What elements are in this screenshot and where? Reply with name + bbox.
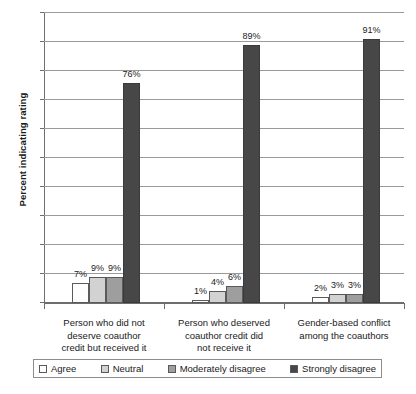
y-tick-mark — [40, 186, 44, 187]
y-tick-mark — [40, 244, 44, 245]
y-tick-mark — [40, 99, 44, 100]
category-label-line: among the coauthors — [278, 330, 410, 343]
bar — [89, 277, 106, 303]
gridline — [44, 244, 404, 245]
category-label-line: Gender-based conflict — [278, 317, 410, 330]
gridline — [44, 70, 404, 71]
bar — [192, 300, 209, 303]
legend-item[interactable]: Moderately disagree — [168, 363, 266, 374]
y-tick-mark — [40, 70, 44, 71]
category-label-line: Person who deserved — [158, 317, 290, 330]
bar-value-label: 76% — [117, 69, 146, 79]
y-axis-title: Percent indicating rating — [17, 50, 28, 250]
legend-label: Neutral — [113, 363, 144, 374]
category-label: Gender-based conflictamong the coauthors — [278, 317, 410, 342]
category-label-line: not receive it — [158, 342, 290, 355]
gridline — [44, 186, 404, 187]
category-tick — [284, 303, 285, 309]
category-label-line: deserve coauthor — [38, 330, 170, 343]
gridline — [44, 41, 404, 42]
bar — [209, 291, 226, 303]
y-tick-mark — [40, 41, 44, 42]
legend-label: Moderately disagree — [180, 363, 266, 374]
bar — [346, 294, 363, 303]
legend-swatch-icon — [290, 365, 298, 373]
y-tick-mark — [40, 128, 44, 129]
bar-value-label: 91% — [357, 25, 386, 35]
bar — [243, 45, 260, 303]
category-label: Person who deservedcoauthor credit didno… — [158, 317, 290, 355]
y-tick-mark — [40, 12, 44, 13]
y-tick-mark — [40, 215, 44, 216]
category-label: Person who did notdeserve coauthorcredit… — [38, 317, 170, 355]
legend-swatch-icon — [168, 365, 176, 373]
bar — [329, 294, 346, 303]
category-tick — [404, 303, 405, 309]
category-tick — [44, 303, 45, 309]
category-label-line: Person who did not — [38, 317, 170, 330]
category-tick — [164, 303, 165, 309]
gridline — [44, 128, 404, 129]
legend-swatch-icon — [39, 365, 47, 373]
bar — [72, 283, 89, 303]
y-tick-mark — [40, 273, 44, 274]
gridline — [44, 12, 404, 13]
plot-area: 0%10%20%30%40%50%60%70%80%90%100% 7%9%9%… — [44, 12, 404, 303]
legend-item[interactable]: Strongly disagree — [290, 363, 376, 374]
category-label-line: coauthor credit did — [158, 330, 290, 343]
y-tick-mark — [40, 157, 44, 158]
gridline — [44, 215, 404, 216]
bar-value-label: 89% — [237, 31, 266, 41]
legend-label: Agree — [51, 363, 76, 374]
bar — [312, 297, 329, 303]
bar — [226, 286, 243, 303]
gridline — [44, 157, 404, 158]
legend-label: Strongly disagree — [302, 363, 376, 374]
bar — [123, 83, 140, 303]
legend-item[interactable]: Neutral — [101, 363, 144, 374]
bar — [363, 39, 380, 303]
legend-item[interactable]: Agree — [39, 363, 76, 374]
gridline — [44, 99, 404, 100]
bar-chart: Percent indicating rating 0%10%20%30%40%… — [0, 0, 416, 394]
legend-swatch-icon — [101, 365, 109, 373]
category-label-line: credit but received it — [38, 342, 170, 355]
chart-legend: AgreeNeutralModerately disagreeStrongly … — [33, 359, 382, 378]
bar — [106, 277, 123, 303]
